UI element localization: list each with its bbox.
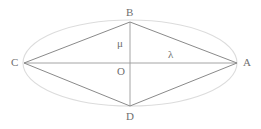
- edge-dc: [24, 63, 130, 106]
- vertex-label-b: B: [126, 7, 133, 18]
- vertex-label-d: D: [126, 111, 134, 122]
- vertex-label-c: C: [11, 57, 18, 68]
- geometry-figure: B C A D O μ λ: [0, 0, 261, 129]
- edge-ad: [130, 63, 237, 106]
- origin-label-o: O: [117, 66, 125, 77]
- vertex-label-a: A: [243, 57, 251, 68]
- edge-ba: [130, 22, 237, 63]
- semi-minor-label-mu: μ: [117, 38, 123, 49]
- edge-cb: [24, 22, 130, 63]
- semi-major-label-lambda: λ: [168, 49, 173, 60]
